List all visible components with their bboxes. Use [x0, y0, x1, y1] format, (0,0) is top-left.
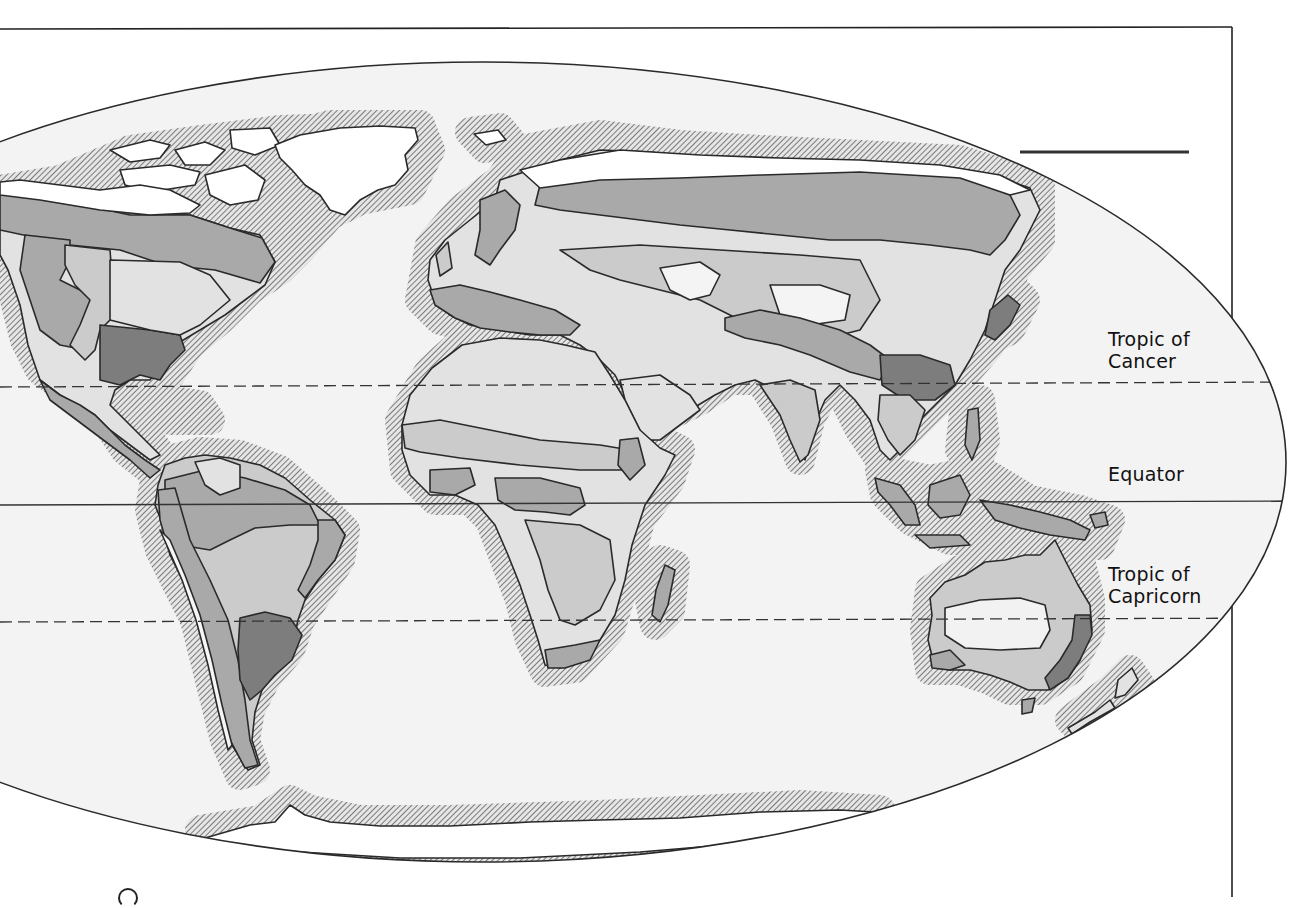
label-tropic-of-cancer-line1: Tropic of: [1108, 328, 1190, 350]
label-equator-text: Equator: [1108, 463, 1184, 485]
label-tropic-of-capricorn-line1: Tropic of: [1108, 563, 1201, 585]
label-tropic-of-cancer-line2: Cancer: [1108, 350, 1190, 372]
label-tropic-of-capricorn-line2: Capricorn: [1108, 585, 1201, 607]
label-equator: Equator: [1108, 463, 1184, 485]
cropped-letter-fragment: [118, 888, 138, 908]
label-tropic-of-cancer: Tropic of Cancer: [1108, 328, 1190, 372]
label-tropic-of-capricorn: Tropic of Capricorn: [1108, 563, 1201, 607]
